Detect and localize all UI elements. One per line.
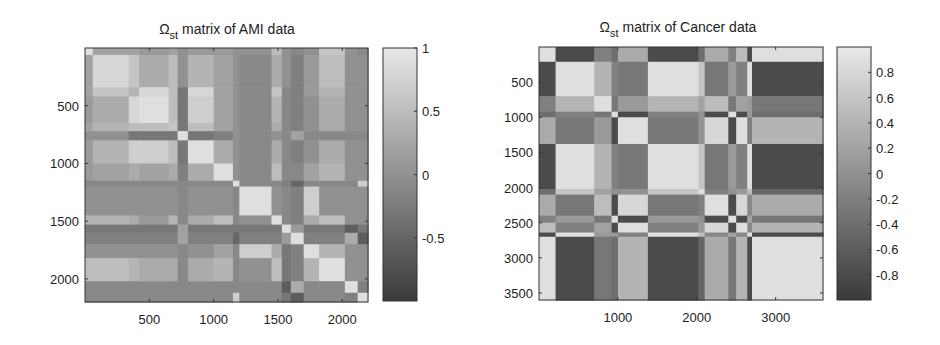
cancer-heatmap-cell bbox=[705, 223, 729, 233]
ami-heatmap-cell bbox=[272, 281, 283, 293]
ami-heatmap-cell bbox=[345, 131, 358, 141]
cancer-heatmap-cell bbox=[648, 47, 699, 62]
cancer-heatmap-cell bbox=[736, 112, 748, 118]
ami-heatmap-cell bbox=[319, 293, 345, 303]
ami-heatmap-cell bbox=[272, 215, 283, 225]
cancer-heatmap-cell bbox=[705, 112, 729, 118]
cancer-heatmap-cell bbox=[705, 237, 729, 301]
ami-heatmap-cell bbox=[304, 163, 320, 181]
cancer-heatmap-cell bbox=[618, 47, 649, 62]
ami-heatmap-cell bbox=[345, 87, 358, 97]
cancer-heatmap-cell bbox=[705, 62, 729, 97]
cancer-heatmap-cell bbox=[539, 117, 556, 144]
colorbar-tick-label: 0 bbox=[422, 168, 429, 183]
ami-heatmap-cell bbox=[233, 123, 240, 132]
ami-heatmap-cell bbox=[233, 55, 240, 88]
cancer-heatmap-cell bbox=[618, 112, 649, 118]
ami-heatmap-cell bbox=[233, 163, 240, 181]
cancer-heatmap-cell bbox=[612, 216, 619, 224]
ami-heatmap-cell bbox=[139, 187, 169, 216]
cancer-heatmap-cell bbox=[612, 189, 619, 195]
cancer-heatmap-cell bbox=[556, 47, 595, 62]
cancer-heatmap-cell bbox=[752, 117, 824, 144]
cancer-heatmap-cell bbox=[612, 237, 619, 301]
ami-heatmap-cell bbox=[345, 293, 358, 303]
ami-heatmap-cell bbox=[214, 281, 234, 293]
cancer-heatmap-cell bbox=[612, 144, 619, 190]
ami-heatmap-cell bbox=[282, 187, 292, 216]
ami-heatmap-cell bbox=[282, 293, 292, 303]
cancer-heatmap-cell bbox=[594, 237, 612, 301]
ami-heatmap-cell bbox=[85, 48, 93, 56]
cancer-chart-panel: Ωst matrix of Cancer data 10002000300050… bbox=[470, 0, 940, 345]
ami-heatmap-cell bbox=[188, 293, 214, 303]
cancer-heatmap-cell bbox=[612, 233, 619, 238]
ami-heatmap-cell bbox=[169, 48, 179, 56]
cancer-heatmap-cell bbox=[594, 195, 612, 217]
colorbar-tick-label: -0.2 bbox=[876, 192, 898, 207]
ami-heatmap-cell bbox=[272, 225, 283, 234]
ami-heatmap-cell bbox=[129, 96, 140, 123]
ami-heatmap-cell bbox=[358, 233, 369, 245]
colorbar-tick-label: -0.8 bbox=[876, 268, 898, 283]
ami-heatmap-cell bbox=[358, 293, 369, 303]
ami-heatmap-cell bbox=[178, 215, 189, 225]
ami-heatmap-cell bbox=[233, 96, 240, 123]
ami-heatmap-cell bbox=[85, 258, 93, 282]
ami-heatmap-cell bbox=[233, 225, 240, 234]
ami-heatmap-cell bbox=[272, 181, 283, 187]
ami-heatmap-cell bbox=[304, 225, 320, 234]
ami-heatmap-cell bbox=[169, 244, 179, 258]
ami-heatmap-cell bbox=[358, 87, 369, 97]
ami-heatmap-cell bbox=[233, 140, 240, 164]
ami-heatmap-cell bbox=[169, 55, 179, 88]
ami-heatmap-cell bbox=[345, 187, 358, 216]
cancer-heatmap-cell bbox=[648, 117, 699, 144]
ami-heatmap-cell bbox=[214, 87, 234, 97]
cancer-heatmap-cell bbox=[556, 117, 595, 144]
cancer-heatmap-cell bbox=[618, 144, 649, 190]
ami-heatmap-cell bbox=[239, 131, 272, 141]
ami-heatmap-cell bbox=[304, 181, 320, 187]
ami-heatmap-cell bbox=[291, 123, 304, 132]
ami-heatmap-cell bbox=[139, 215, 169, 225]
ami-heatmap-cell bbox=[358, 140, 369, 164]
cancer-heatmap-cell bbox=[539, 144, 556, 190]
cancer-heatmap-cell bbox=[728, 223, 736, 233]
ami-heatmap-cell bbox=[239, 140, 272, 164]
cancer-heatmap-cell bbox=[539, 189, 556, 195]
ami-heatmap-cell bbox=[178, 244, 189, 258]
ami-heatmap-cell bbox=[358, 96, 369, 123]
ami-heatmap-cell bbox=[239, 244, 272, 258]
ami-heatmap-cell bbox=[291, 96, 304, 123]
ami-heatmap-cell bbox=[319, 96, 345, 123]
cancer-heatmap-cell bbox=[556, 195, 595, 217]
ami-heatmap-cell bbox=[282, 87, 292, 97]
ami-heatmap-cell bbox=[304, 215, 320, 225]
cancer-heatmap-cell bbox=[736, 144, 748, 190]
cancer-heatmap-cell bbox=[618, 223, 649, 233]
ami-heatmap-cell bbox=[139, 163, 169, 181]
cancer-heatmap-cell bbox=[556, 237, 595, 301]
ami-heatmap-cell bbox=[214, 258, 234, 282]
ami-heatmap-cell bbox=[129, 48, 140, 56]
ami-heatmap-cell bbox=[169, 131, 179, 141]
cancer-heatmap-cell bbox=[612, 117, 619, 144]
ami-heatmap-cell bbox=[358, 258, 369, 282]
cancer-heatmap-cell bbox=[556, 96, 595, 112]
ami-heatmap-cell bbox=[85, 55, 93, 88]
cancer-heatmap-cell bbox=[705, 233, 729, 238]
cancer-heatmap-cell bbox=[698, 216, 705, 224]
ami-heatmap-cell bbox=[178, 55, 189, 88]
colorbar-tick-label: -0.4 bbox=[876, 217, 898, 232]
ami-heatmap-cell bbox=[93, 258, 130, 282]
cancer-heatmap-cell bbox=[705, 216, 729, 224]
ami-heatmap-cell bbox=[85, 187, 93, 216]
ami-heatmap-cell bbox=[139, 48, 169, 56]
ami-heatmap-cell bbox=[233, 48, 240, 56]
ami-heatmap-cell bbox=[272, 96, 283, 123]
ami-heatmap-cell bbox=[319, 258, 345, 282]
ami-heatmap-cell bbox=[178, 281, 189, 293]
ami-heatmap-cells bbox=[85, 48, 369, 303]
ami-heatmap-cell bbox=[93, 48, 130, 56]
